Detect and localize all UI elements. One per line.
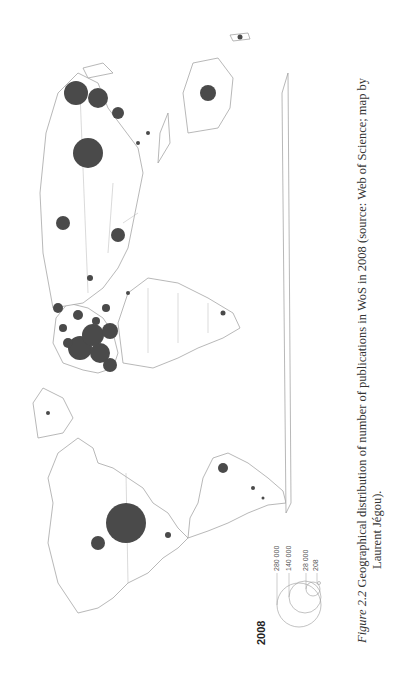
bubble-india [111, 228, 125, 242]
bubble-chile [262, 497, 265, 500]
legend-circle-280000 [277, 583, 321, 627]
figure-caption: Figure 2.2 Geographical distribution of … [355, 23, 385, 643]
figure-page: 2008 280 000 140 000 28 000 208 Figure 2… [0, 0, 402, 673]
antarctica-outline [282, 73, 291, 513]
south-america-outline [188, 453, 286, 538]
bubble-sweden [59, 324, 67, 332]
africa-outline [118, 278, 240, 368]
bubble-spain [103, 358, 117, 372]
legend-label-208: 208 [312, 559, 319, 571]
indonesia-outline [158, 113, 170, 163]
legend-label-280000: 280 000 [273, 546, 280, 571]
bubble-netherlands [63, 338, 73, 348]
world-map [18, 23, 293, 653]
bubble-japan [64, 81, 88, 105]
bubble-italy [102, 323, 118, 339]
bubble-switzerland [92, 317, 100, 325]
bubble-poland [73, 310, 83, 320]
asia-outline [40, 73, 143, 308]
greenland-outline [33, 388, 73, 438]
figure-number: Figure 2.2 [355, 591, 369, 643]
world-map-svg [18, 23, 293, 653]
caption-text-line2: Laurent Jégou). [370, 23, 385, 643]
legend-circle-140000 [289, 581, 321, 613]
legend-label-140000: 140 000 [285, 546, 292, 571]
bubble-south-korea [88, 88, 108, 108]
bubble-russia [56, 216, 70, 230]
bubble-usa [106, 503, 146, 543]
bubble-egypt [126, 291, 130, 295]
caption-text-line1: Geographical distribution of number of p… [355, 78, 369, 588]
legend-circle-208 [318, 582, 321, 585]
bubble-iran [87, 275, 93, 281]
bubble-australia [200, 85, 216, 101]
bubble-iceland [46, 411, 50, 415]
bubble-brazil [218, 463, 228, 473]
legend-label-28000: 28 000 [302, 550, 309, 571]
bubble-turkey [102, 304, 110, 312]
bubble-new-zealand [238, 35, 243, 40]
bubble-thailand [136, 141, 140, 145]
bubble-germany [82, 324, 104, 346]
bubble-argentina [251, 486, 255, 490]
bubble-china [73, 138, 103, 168]
bubble-singapore [146, 131, 150, 135]
bubble-mexico [165, 532, 171, 538]
bubble-taiwan [112, 107, 124, 119]
bubble-canada [91, 536, 105, 550]
japan-outline [83, 63, 113, 78]
bubble-south-africa [221, 311, 226, 316]
map-legend: 2008 280 000 140 000 28 000 208 [255, 535, 325, 645]
bubble-russia-west [53, 303, 63, 313]
